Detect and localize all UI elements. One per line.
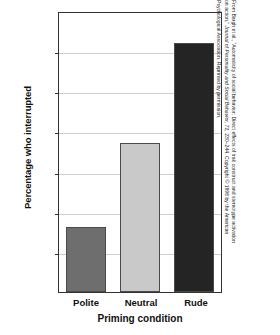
figure-bar-chart: Percentage who interrupted 70 60 50 40 3… [0,0,280,335]
bar-polite [66,227,106,292]
credit-line-2-a: on action,” [224,0,230,25]
credit-line-3: Psychological Association. Reprinted by … [215,0,222,335]
credit-line-2-b: 230–244. Copyright © 1996 by the America… [224,132,230,235]
x-tick-label-neutral: Neutral [113,297,169,308]
x-tick-label-polite: Polite [58,297,114,308]
y-axis-title: Percentage who interrupted [22,63,33,233]
bar-neutral [120,143,160,292]
credit-line-2: on action,” Journal of Personality and S… [222,0,229,335]
credit-line-1: From Bargh et al., “Automaticity of soci… [230,0,237,335]
credit-journal-title: Journal of Personality and Social Behavi… [224,25,230,131]
source-credit: From Bargh et al., “Automaticity of soci… [195,0,237,335]
